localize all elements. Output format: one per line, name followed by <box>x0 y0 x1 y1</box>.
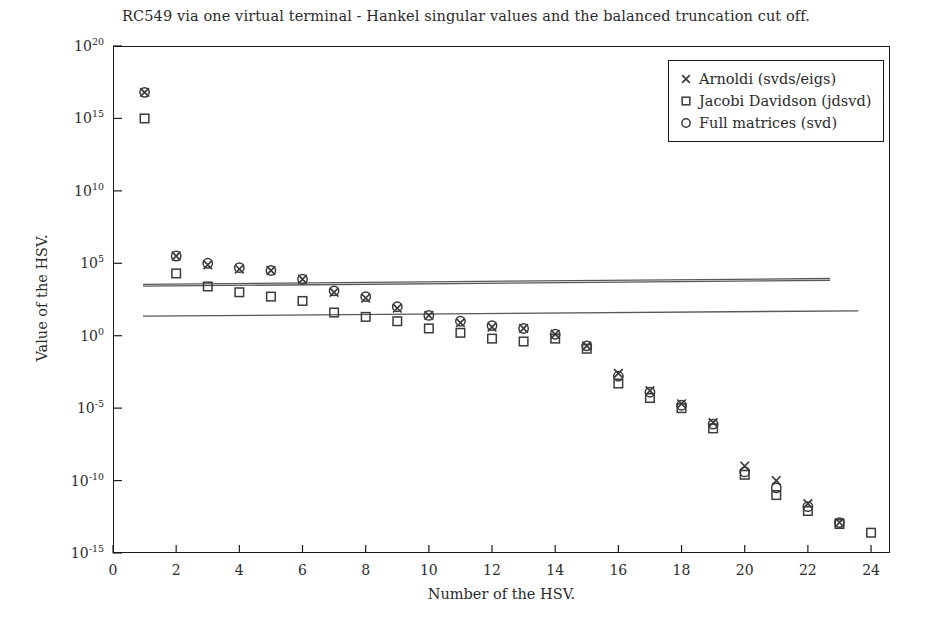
y-tick-label: 1015 <box>20 110 104 126</box>
x-tick-label: 0 <box>109 562 118 578</box>
legend-item-label: Arnoldi (svds/eigs) <box>699 71 836 87</box>
x-tick-label: 20 <box>736 562 754 578</box>
chart-title: RC549 via one virtual terminal - Hankel … <box>0 8 932 24</box>
legend-item-0: Arnoldi (svds/eigs) <box>678 68 871 90</box>
legend: Arnoldi (svds/eigs)Jacobi Davidson (jdsv… <box>668 60 884 142</box>
legend-item-1: Jacobi Davidson (jdsvd) <box>678 90 871 112</box>
figure: RC549 via one virtual terminal - Hankel … <box>0 0 932 620</box>
x-tick-label: 14 <box>546 562 564 578</box>
y-tick-label: 10-15 <box>20 545 104 561</box>
y-axis-label: Value of the HSV. <box>34 148 50 448</box>
x-tick-label: 22 <box>799 562 817 578</box>
legend-item-label: Jacobi Davidson (jdsvd) <box>699 93 871 109</box>
x-tick-label: 24 <box>862 562 880 578</box>
square-marker-icon <box>678 93 694 109</box>
legend-item-2: Full matrices (svd) <box>678 112 871 134</box>
y-tick-label: 105 <box>20 255 104 271</box>
x-tick-label: 8 <box>361 562 370 578</box>
y-tick-label: 100 <box>20 328 104 344</box>
x-tick-label: 10 <box>420 562 438 578</box>
x-axis-label: Number of the HSV. <box>113 586 890 602</box>
x-tick-label: 12 <box>483 562 501 578</box>
x-tick-label: 4 <box>235 562 244 578</box>
x-tick-label: 16 <box>609 562 627 578</box>
y-tick-label: 1010 <box>20 183 104 199</box>
y-tick-label: 10-10 <box>20 473 104 489</box>
legend-item-label: Full matrices (svd) <box>699 115 837 131</box>
circle-marker-icon <box>678 115 694 131</box>
x-marker-icon <box>678 71 694 87</box>
x-tick-label: 2 <box>172 562 181 578</box>
x-tick-label: 18 <box>673 562 691 578</box>
x-tick-label: 6 <box>298 562 307 578</box>
y-tick-label: 1020 <box>20 38 104 54</box>
y-tick-label: 10-5 <box>20 400 104 416</box>
